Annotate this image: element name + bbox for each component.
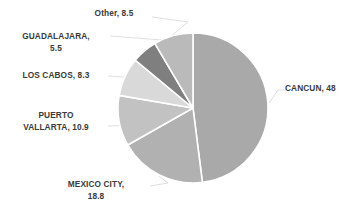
pie-chart: Other, 8.5 GUADALAJARA, 5.5 LOS CABOS, 8… xyxy=(0,0,359,213)
slice-label-other: Other, 8.5 xyxy=(75,8,153,20)
slice-label-los-cabos: LOS CABOS, 8.3 xyxy=(4,70,108,82)
pie-slice xyxy=(193,33,268,182)
slice-label-puerto-vallarta: PUERTO VALLARTA, 10.9 xyxy=(4,110,108,133)
pie-slices-group xyxy=(118,33,268,183)
slice-label-guadalajara: GUADALAJARA, 5.5 xyxy=(4,31,108,54)
leader-line xyxy=(269,90,284,103)
slice-label-cancun: CANCUN, 48 xyxy=(285,83,359,95)
slice-label-mexico-city: MEXICO CITY, 18.8 xyxy=(44,179,148,202)
leader-line xyxy=(152,17,188,35)
